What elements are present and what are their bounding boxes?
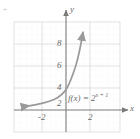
x-axis-label: x	[130, 104, 134, 113]
function-label-text: f(x) = 2	[68, 93, 96, 103]
x-tick-label-neg2: -2	[38, 113, 46, 122]
y-axis-label: y	[70, 5, 74, 14]
plot-canvas	[0, 0, 140, 139]
plot-background	[14, 22, 120, 132]
function-label-exponent: x + 1	[96, 92, 109, 98]
exponential-function-graph: +	[0, 0, 140, 139]
y-tick-label-6: 6	[57, 61, 62, 70]
y-tick-label-2: 2	[57, 99, 62, 108]
x-tick-label-2: 2	[88, 113, 93, 122]
function-label: f(x) = 2x + 1	[68, 92, 108, 103]
y-tick-label-4: 4	[57, 83, 62, 92]
y-tick-label-8: 8	[57, 39, 62, 48]
